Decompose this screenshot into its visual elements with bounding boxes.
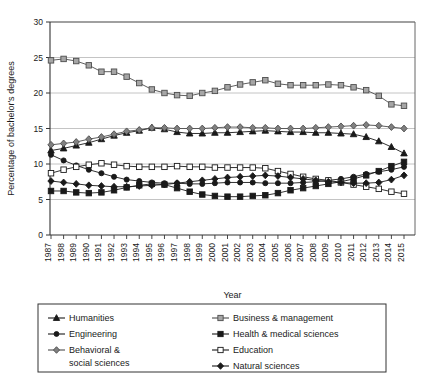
data-point <box>99 190 104 195</box>
legend-label: Education <box>233 345 273 355</box>
data-point <box>326 82 331 87</box>
y-tick-label-0: 0 <box>38 230 43 240</box>
data-point <box>73 139 79 146</box>
x-tick-label-1995: 1995 <box>144 243 154 262</box>
data-point <box>288 188 293 193</box>
data-point <box>389 102 394 107</box>
data-point <box>86 136 92 143</box>
x-tick-label-1988: 1988 <box>56 243 66 262</box>
x-tick-label-1993: 1993 <box>119 243 129 262</box>
data-point <box>250 193 255 198</box>
legend-label: Humanities <box>69 313 115 323</box>
x-tick-label-1996: 1996 <box>156 243 166 262</box>
y-tick-label-5: 5 <box>38 195 43 205</box>
legend-label: Health & medical sciences <box>233 329 339 339</box>
x-tick-label-1987: 1987 <box>43 243 53 262</box>
x-tick-label-2005: 2005 <box>270 243 280 262</box>
data-point <box>86 190 91 195</box>
data-point <box>86 167 91 172</box>
data-point <box>376 122 382 129</box>
x-axis: 1987198819891990199119921993199419951996… <box>43 235 406 262</box>
data-point <box>388 143 395 149</box>
data-point <box>300 82 305 87</box>
data-point <box>401 103 406 108</box>
data-point <box>212 88 217 93</box>
data-point <box>162 164 167 169</box>
data-point <box>212 165 217 170</box>
data-point <box>250 173 256 180</box>
data-point <box>389 189 394 194</box>
x-tick-label-2001: 2001 <box>220 243 230 262</box>
x-tick-label-1998: 1998 <box>182 243 192 262</box>
data-point <box>137 164 142 169</box>
data-point <box>263 166 268 171</box>
data-point <box>174 163 179 168</box>
data-point <box>224 124 230 131</box>
data-point <box>187 125 193 132</box>
data-point <box>111 174 116 179</box>
x-tick-label-2009: 2009 <box>320 243 330 262</box>
legend-label: Natural sciences <box>233 361 300 371</box>
x-tick-label-2014: 2014 <box>383 243 393 262</box>
x-tick-label-1999: 1999 <box>194 243 204 262</box>
data-point <box>61 167 66 172</box>
y-tick-label-10: 10 <box>34 159 44 169</box>
legend-label: Engineering <box>69 329 117 339</box>
data-point <box>401 125 407 132</box>
data-point <box>313 82 318 87</box>
data-point <box>376 179 382 186</box>
x-tick-label-1992: 1992 <box>106 243 116 262</box>
data-point <box>225 165 230 170</box>
data-point <box>300 125 306 132</box>
data-point <box>86 182 92 189</box>
chart-figure: 051015202530 198719881989199019911992199… <box>0 0 426 377</box>
x-tick-label-2006: 2006 <box>283 243 293 262</box>
legend-label-line2: social sciences <box>69 358 130 368</box>
data-point <box>48 188 53 193</box>
data-point <box>388 124 394 131</box>
data-point <box>60 179 66 186</box>
data-point <box>73 58 78 63</box>
data-point <box>313 124 319 131</box>
y-axis: 051015202530 <box>34 17 50 240</box>
data-point <box>363 122 369 129</box>
data-point <box>300 185 305 190</box>
x-tick-label-1991: 1991 <box>93 243 103 262</box>
data-point <box>174 92 179 97</box>
data-point <box>218 347 223 352</box>
x-tick-label-1997: 1997 <box>169 243 179 262</box>
data-point <box>237 82 242 87</box>
data-point <box>376 186 381 191</box>
data-point <box>275 181 280 186</box>
series-line <box>51 59 404 106</box>
data-point <box>212 193 217 198</box>
y-tick-label-25: 25 <box>34 53 44 63</box>
data-point <box>225 85 230 90</box>
data-point <box>73 190 78 195</box>
y-tick-label-20: 20 <box>34 88 44 98</box>
chart-legend: HumanitiesBusiness & managementEngineeri… <box>38 304 386 372</box>
data-point <box>48 58 53 63</box>
data-point <box>187 164 192 169</box>
data-point <box>263 181 268 186</box>
data-point <box>338 82 343 87</box>
y-tick-label-30: 30 <box>34 17 44 27</box>
y-axis-title: Percentage of bachelor's degrees <box>6 61 16 196</box>
data-point <box>350 122 356 129</box>
data-point <box>237 124 243 131</box>
data-point <box>262 124 268 131</box>
data-point <box>200 90 205 95</box>
data-point <box>124 74 129 79</box>
data-point <box>363 173 368 178</box>
x-tick-label-2010: 2010 <box>333 243 343 262</box>
data-point <box>401 164 406 169</box>
data-point <box>149 164 154 169</box>
data-point <box>250 80 255 85</box>
data-point <box>376 93 381 98</box>
data-point <box>401 150 408 156</box>
data-point <box>99 69 104 74</box>
data-point <box>99 161 104 166</box>
x-tick-label-2015: 2015 <box>396 243 406 262</box>
data-point <box>237 194 242 199</box>
data-point <box>325 124 331 131</box>
